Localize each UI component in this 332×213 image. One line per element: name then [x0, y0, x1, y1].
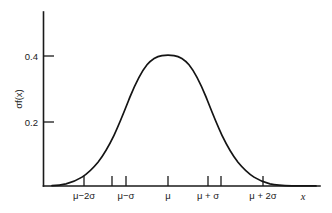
- y-tick-label-0.4: 0.4: [25, 51, 38, 62]
- x-tick-label-mu-plus-2sigma: μ + 2σ: [249, 190, 277, 201]
- x-tick-label-mu: μ: [165, 190, 170, 201]
- y-axis-label: σf(x): [13, 89, 24, 109]
- y-tick-label-0.2: 0.2: [25, 117, 38, 128]
- x-tick-label-mu-minus-2sigma: μ−2σ: [73, 190, 95, 201]
- x-tick-label-mu-minus-sigma: μ−σ: [118, 190, 135, 201]
- normal-curve-trace: [52, 55, 316, 186]
- x-tick-label-mu-plus-sigma: μ + σ: [197, 190, 219, 201]
- normal-distribution-chart: 0.4 0.2 σf(x) μ−2σ μ−σ μ μ + σ μ + 2σ x: [0, 0, 332, 213]
- x-axis-label: x: [300, 191, 306, 202]
- plot-canvas: 0.4 0.2 σf(x) μ−2σ μ−σ μ μ + σ μ + 2σ x: [0, 0, 332, 213]
